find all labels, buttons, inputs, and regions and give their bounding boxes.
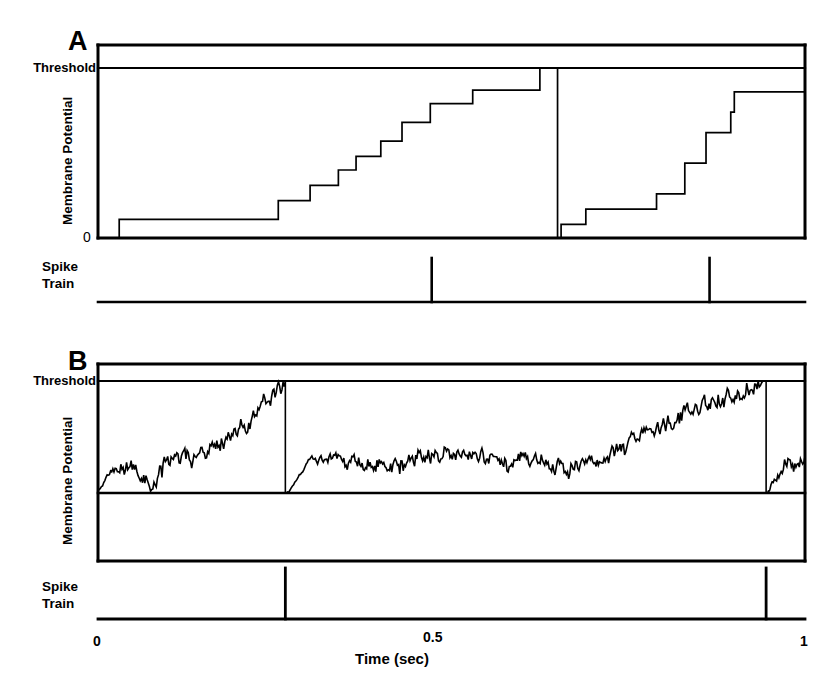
- panel-b-spike-label-line2: Train: [42, 596, 74, 611]
- figure-root: A Threshold Membrane Potential 0 Spike T…: [0, 0, 822, 680]
- panel-b-letter: B: [68, 348, 88, 375]
- panel-a-threshold-label: Threshold: [0, 60, 96, 75]
- panel-a-membrane-potential-trace: [98, 68, 805, 238]
- panel-b-membrane-trace-segment-1: [98, 381, 285, 493]
- panel-a-spike-train-label: Spike Train: [42, 258, 78, 292]
- x-axis-title: Time (sec): [355, 650, 429, 667]
- xtick-label-0: 0: [93, 633, 101, 649]
- panel-b-spike-train-label: Spike Train: [42, 578, 78, 612]
- panel-a-spike-label-line2: Train: [42, 276, 74, 291]
- plot-svg-layer: [0, 0, 822, 680]
- panel-b-y-axis-label: Membrane Potential: [60, 417, 75, 545]
- xtick-label-0p5: 0.5: [423, 629, 442, 645]
- xtick-label-1: 1: [800, 633, 808, 649]
- panel-b-threshold-label: Threshold: [0, 373, 96, 388]
- panel-a-letter: A: [68, 28, 88, 55]
- panel-a-y-axis-label: Membrane Potential: [60, 97, 75, 225]
- panel-a-spike-label-line1: Spike: [42, 259, 78, 274]
- panel-b-spike-label-line1: Spike: [42, 579, 78, 594]
- panel-b-membrane-trace-segment-3: [768, 456, 805, 492]
- panel-b-membrane-trace-segment-2: [287, 381, 766, 493]
- panel-a-zero-label: 0: [83, 229, 91, 245]
